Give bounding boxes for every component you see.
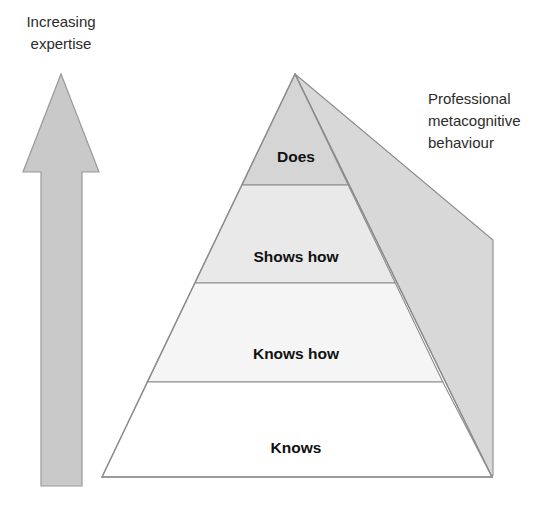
figure-canvas: Increasing expertise Does Shows how Know… (0, 0, 544, 508)
side-caption-line2: metacognitive (428, 112, 521, 129)
increasing-expertise-line2: expertise (31, 35, 92, 52)
up-arrow-icon (23, 74, 99, 486)
side-caption-line1: Professional (428, 90, 511, 107)
millers-pyramid-diagram: Increasing expertise Does Shows how Know… (0, 0, 544, 508)
pyramid-tier-knows[interactable] (102, 382, 492, 477)
tier-label-shows-how: Shows how (253, 248, 339, 265)
tier-label-knows: Knows (271, 439, 322, 456)
increasing-expertise-arrow-group (23, 74, 99, 486)
side-caption-line3: behaviour (428, 134, 494, 151)
tier-label-does: Does (277, 148, 315, 165)
tier-label-knows-how: Knows how (253, 345, 340, 362)
increasing-expertise-line1: Increasing (26, 13, 95, 30)
pyramid-tier-knows-how[interactable] (147, 283, 443, 382)
